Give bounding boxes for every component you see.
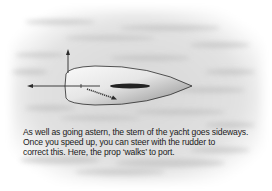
keel-shape <box>110 83 150 88</box>
caption-line-1: As well as going astern, the stern of th… <box>23 127 263 137</box>
caption-text: As well as going astern, the stern of th… <box>23 127 263 157</box>
caption-line-2: Once you speed up, you can steer with th… <box>23 137 263 147</box>
caption-line-3: correct this. Here, the prop ‘walks’ to … <box>23 147 263 157</box>
yacht-diagram <box>0 0 272 191</box>
